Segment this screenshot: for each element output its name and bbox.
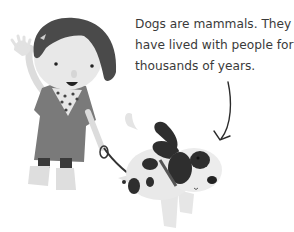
- girl-illustration: [12, 18, 116, 190]
- curved-arrow-icon: [214, 82, 230, 140]
- illustration: [0, 0, 294, 232]
- dog-illustration: [118, 113, 222, 228]
